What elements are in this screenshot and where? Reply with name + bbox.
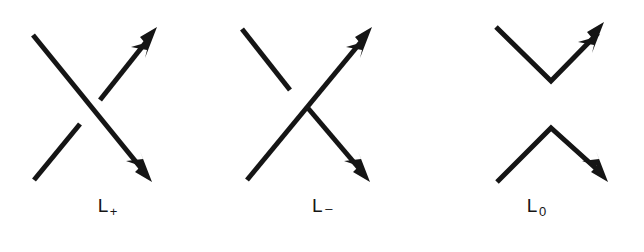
crossing-drawing-l-minus — [215, 0, 430, 205]
crossing-diagram-l-zero — [429, 0, 644, 205]
crossing-diagram-l-plus — [0, 0, 215, 205]
upper-arc-l-zero — [496, 27, 598, 81]
crossing-diagram-l-minus — [215, 0, 430, 205]
crossing-label-subscript-l-plus: + — [110, 204, 118, 219]
lower-arc-l-zero — [497, 128, 601, 182]
crossing-label-base-l-plus: L — [98, 195, 109, 216]
crossing-panel-l-zero: L0 — [429, 0, 644, 252]
crossing-panel-l-minus: L– — [215, 0, 430, 252]
crossing-label-subscript-l-zero: 0 — [539, 204, 546, 219]
crossing-label-l-zero: L0 — [429, 196, 644, 218]
crossing-label-base-l-minus: L — [312, 195, 323, 216]
crossing-drawing-l-zero — [429, 0, 644, 205]
skein-crossings-figure: L+ L– — [0, 0, 644, 252]
under-strand-segment-lower-l-plus — [34, 124, 80, 180]
crossing-drawing-l-plus — [0, 0, 215, 205]
crossing-label-l-minus: L– — [215, 196, 430, 215]
over-strand-line-l-plus — [33, 35, 145, 173]
crossing-label-subscript-l-minus: – — [325, 201, 333, 216]
under-strand-segment-upper-l-minus — [242, 29, 290, 90]
crossing-panel-l-plus: L+ — [0, 0, 215, 252]
crossing-label-l-plus: L+ — [0, 196, 215, 218]
crossing-label-base-l-zero: L — [527, 195, 538, 216]
